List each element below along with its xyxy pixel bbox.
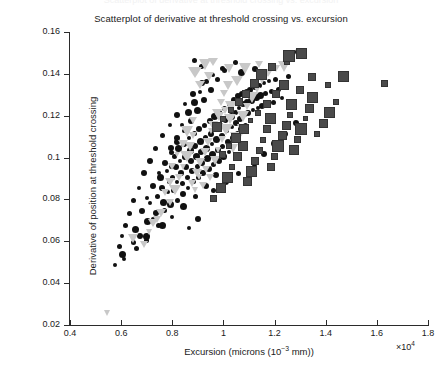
- y-tick-label: 0.08: [42, 193, 60, 203]
- data-point-square: [286, 99, 297, 110]
- clipped-header-text: Scatterplot of derivative at threshold c…: [0, 0, 442, 8]
- data-point-circle: [193, 194, 198, 199]
- data-point-square: [267, 163, 275, 171]
- x-axis-multiplier: ×104: [396, 340, 415, 352]
- data-point-triangle-down: [168, 163, 176, 170]
- data-point-square: [272, 140, 284, 152]
- data-point-square: [216, 183, 226, 193]
- x-tick-label: 1.4: [319, 328, 332, 338]
- data-point-circle: [215, 77, 220, 82]
- data-point-triangle-down: [146, 229, 152, 235]
- data-point-circle: [175, 198, 180, 203]
- data-point-triangle-down: [189, 117, 197, 124]
- data-point-circle: [153, 146, 158, 151]
- data-point-circle: [174, 112, 180, 118]
- x-tick-label: 0.8: [166, 328, 179, 338]
- data-point-square: [308, 73, 316, 81]
- data-point-square: [305, 104, 314, 113]
- data-point-circle: [137, 186, 141, 190]
- data-point-square: [260, 137, 266, 143]
- data-point-circle: [127, 211, 132, 216]
- data-point-square: [338, 71, 349, 82]
- data-point-circle: [185, 109, 192, 116]
- x-axis-multiplier-base: ×10: [396, 342, 411, 352]
- data-point-triangle-down: [204, 72, 214, 81]
- data-point-square: [226, 143, 232, 149]
- y-tick-label: 0.14: [42, 68, 60, 78]
- data-point-triangle-down: [231, 76, 243, 86]
- data-point-square: [314, 131, 320, 137]
- data-point-circle: [123, 223, 128, 228]
- x-axis-line: [69, 325, 429, 326]
- clipped-header-label: Scatterplot of derivative at threshold c…: [0, 0, 442, 5]
- data-point-square: [272, 90, 280, 98]
- data-point-triangle-down: [165, 178, 175, 186]
- data-point-square: [294, 136, 301, 143]
- data-point-circle: [237, 106, 241, 110]
- x-axis-label-text: Excursion (microns (10−3 mm)): [184, 346, 314, 357]
- data-point-square: [243, 177, 252, 186]
- page-title: Scatterplot of derivative at threshold c…: [0, 13, 442, 24]
- data-point-triangle-down: [128, 234, 138, 243]
- y-tick-label: 0.04: [42, 277, 60, 287]
- data-point-triangle-down: [224, 64, 234, 73]
- data-point-circle: [271, 100, 276, 105]
- data-point-circle: [236, 171, 241, 176]
- y-tick-mark: [64, 199, 69, 200]
- data-point-square: [251, 157, 259, 165]
- data-point-square: [307, 92, 318, 103]
- x-axis-label: Excursion (microns (10−3 mm)): [70, 345, 428, 357]
- data-point-triangle-down: [148, 219, 158, 227]
- data-point-square: [278, 131, 287, 140]
- data-point-triangle-down: [161, 189, 169, 196]
- data-point-square: [256, 147, 263, 154]
- data-point-circle: [198, 90, 202, 94]
- y-tick-mark: [64, 74, 69, 75]
- data-point-square: [231, 133, 241, 143]
- data-point-circle: [201, 97, 207, 103]
- data-point-circle: [263, 91, 268, 96]
- data-point-circle: [155, 194, 160, 199]
- y-tick-label: 0.06: [42, 235, 60, 245]
- data-point-square: [333, 99, 339, 105]
- data-point-triangle-down: [180, 164, 186, 170]
- data-point-square: [296, 48, 307, 59]
- data-point-square: [222, 172, 233, 183]
- data-point-square: [212, 122, 222, 132]
- data-point-square: [283, 50, 295, 62]
- data-point-circle: [195, 216, 201, 222]
- data-point-square: [324, 107, 335, 118]
- data-point-square: [295, 123, 307, 135]
- data-point-triangle-down: [180, 151, 194, 162]
- data-point-square: [219, 151, 226, 158]
- data-point-circle: [147, 158, 153, 164]
- data-point-square: [255, 110, 261, 116]
- data-point-square: [228, 107, 234, 113]
- data-point-triangle-down: [199, 182, 207, 189]
- data-point-circle: [187, 226, 191, 230]
- data-point-circle: [208, 87, 214, 93]
- data-point-circle: [185, 175, 190, 180]
- data-point-triangle-down: [104, 310, 110, 316]
- data-point-square: [250, 79, 259, 88]
- data-point-circle: [150, 183, 156, 189]
- data-point-triangle-down: [174, 152, 180, 157]
- data-point-circle: [113, 263, 117, 267]
- data-point-triangle-down: [181, 126, 193, 137]
- data-point-square: [233, 152, 242, 161]
- data-point-triangle-down: [195, 81, 205, 89]
- scatterplot-figure: Scatterplot of derivative at threshold c…: [0, 0, 442, 371]
- data-point-square: [220, 116, 226, 122]
- data-point-circle: [141, 170, 147, 176]
- data-point-square: [268, 63, 276, 71]
- data-point-square: [235, 98, 243, 106]
- data-point-square: [229, 164, 235, 170]
- x-tick-label: 0.6: [115, 328, 128, 338]
- data-point-triangle-down: [178, 140, 188, 148]
- data-point-square: [303, 116, 308, 121]
- data-point-circle: [286, 74, 291, 79]
- data-point-triangle-down: [243, 103, 251, 110]
- y-tick-mark: [64, 32, 69, 33]
- y-tick-mark: [64, 158, 69, 159]
- x-tick-label: 1.8: [422, 328, 435, 338]
